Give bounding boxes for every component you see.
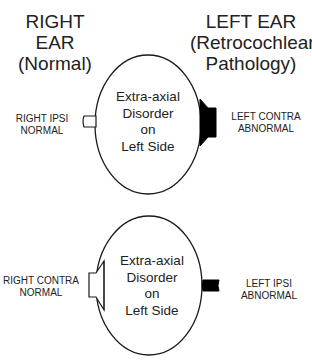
bottom-left-label: RIGHT CONTRA NORMAL [0, 275, 82, 299]
top-center-line3: on [103, 122, 193, 139]
bottom-right-label: LEFT IPSI ABNORMAL [236, 278, 302, 302]
top-left-label: RIGHT IPSI NORMAL [10, 113, 74, 137]
top-right-label-line2: ABNORMAL [226, 123, 306, 135]
left-ear-heading-line3: Pathology) [190, 53, 312, 74]
bottom-center-line2: Disorder [107, 270, 197, 287]
top-center-line4: Left Side [103, 139, 193, 156]
bottom-right-label-line1: LEFT IPSI [236, 278, 302, 290]
bottom-right-probe-icon [202, 280, 219, 291]
top-right-probe-icon [200, 99, 216, 146]
right-ear-heading-line3: (Normal) [10, 53, 100, 74]
bottom-center-line3: on [107, 286, 197, 303]
top-center-line2: Disorder [103, 106, 193, 123]
left-ear-heading-line1: LEFT EAR [190, 11, 312, 32]
top-left-label-line2: NORMAL [10, 125, 74, 137]
top-center-text: Extra-axial Disorder on Left Side [103, 89, 193, 155]
bottom-center-text: Extra-axial Disorder on Left Side [107, 253, 197, 319]
bottom-left-probe-icon [89, 261, 104, 310]
left-ear-heading: LEFT EAR (Retrocochlear Pathology) [190, 11, 312, 74]
bottom-center-line1: Extra-axial [107, 253, 197, 270]
left-ear-heading-line2: (Retrocochlear [190, 32, 312, 53]
bottom-left-label-line1: RIGHT CONTRA [0, 275, 82, 287]
top-left-probe-icon [83, 116, 96, 127]
bottom-center-line4: Left Side [107, 303, 197, 320]
right-ear-heading-line2: EAR [10, 32, 100, 53]
bottom-left-label-line2: NORMAL [0, 287, 82, 299]
right-ear-heading: RIGHT EAR (Normal) [10, 11, 100, 74]
top-left-label-line1: RIGHT IPSI [10, 113, 74, 125]
top-center-line1: Extra-axial [103, 89, 193, 106]
top-right-label-line1: LEFT CONTRA [226, 111, 306, 123]
top-right-label: LEFT CONTRA ABNORMAL [226, 111, 306, 135]
bottom-right-label-line2: ABNORMAL [236, 290, 302, 302]
right-ear-heading-line1: RIGHT [10, 11, 100, 32]
